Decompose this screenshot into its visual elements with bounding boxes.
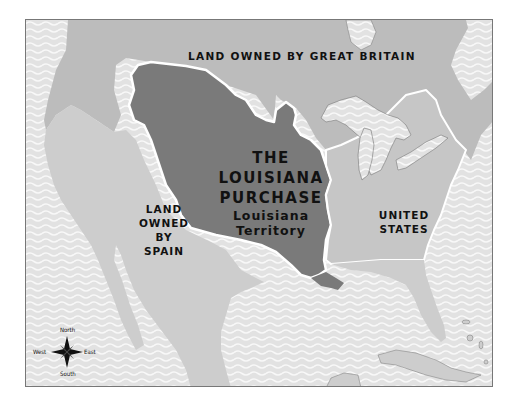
label-louisiana-purchase: THE LOUISIANA PURCHASE — [216, 148, 326, 208]
label-louisiana-territory: Louisiana Territory — [216, 208, 326, 238]
compass-south-label: South — [60, 370, 76, 377]
label-territory-line1: Louisiana — [216, 208, 326, 223]
compass-west-label: West — [33, 348, 46, 355]
label-us-line2: STATES — [369, 222, 439, 236]
label-great-britain: LAND OWNED BY GREAT BRITAIN — [188, 50, 416, 62]
map-frame: LAND OWNED BY GREAT BRITAIN THE LOUISIAN… — [25, 19, 493, 387]
compass-north-label: North — [60, 326, 75, 333]
label-us-line1: UNITED — [369, 208, 439, 222]
label-spain-line3: BY — [129, 230, 199, 244]
compass-east-label: East — [84, 348, 96, 355]
label-territory-line2: Territory — [216, 223, 326, 238]
label-louisiana-line2: LOUISIANA — [216, 168, 326, 188]
label-united-states: UNITED STATES — [369, 208, 439, 236]
label-spain-line1: LAND — [129, 202, 199, 216]
label-louisiana-line1: THE — [216, 148, 326, 168]
label-spain: LAND OWNED BY SPAIN — [129, 202, 199, 258]
label-spain-line2: OWNED — [129, 216, 199, 230]
label-spain-line4: SPAIN — [129, 244, 199, 258]
label-louisiana-line3: PURCHASE — [216, 188, 326, 208]
